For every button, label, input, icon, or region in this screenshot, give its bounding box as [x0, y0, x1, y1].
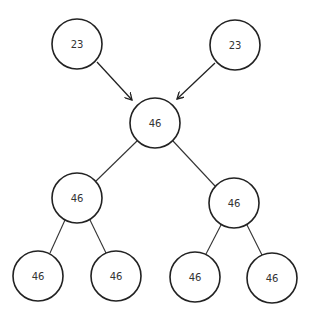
node-label: 46 — [266, 273, 279, 284]
edge-root-to-mid-right — [173, 141, 215, 186]
node-label: 46 — [32, 271, 45, 282]
edge-root-to-mid-left — [96, 141, 137, 181]
edge-mid-right-to-leaf-3 — [206, 225, 221, 254]
node-mid-left: 46 — [52, 173, 102, 223]
arrow-input-left-to-root — [97, 62, 132, 100]
edge-mid-left-to-leaf-2 — [90, 220, 106, 253]
node-input-right: 23 — [210, 20, 260, 70]
node-label: 46 — [71, 193, 84, 204]
node-leaf-4: 46 — [247, 253, 297, 303]
tree-diagram: 23 23 46 46 46 46 46 46 46 — [0, 0, 314, 313]
node-leaf-3: 46 — [170, 252, 220, 302]
node-label: 23 — [71, 39, 84, 50]
edge-mid-right-to-leaf-4 — [247, 225, 262, 255]
node-mid-right: 46 — [209, 178, 259, 228]
node-label: 46 — [228, 198, 241, 209]
node-input-left: 23 — [52, 19, 102, 69]
arrow-input-right-to-root — [177, 63, 215, 99]
node-leaf-1: 46 — [13, 251, 63, 301]
node-label: 46 — [110, 271, 123, 282]
node-label: 46 — [189, 272, 202, 283]
edge-mid-left-to-leaf-1 — [50, 220, 65, 253]
node-root: 46 — [130, 98, 180, 148]
node-leaf-2: 46 — [91, 251, 141, 301]
node-label: 46 — [149, 118, 162, 129]
node-label: 23 — [229, 40, 242, 51]
